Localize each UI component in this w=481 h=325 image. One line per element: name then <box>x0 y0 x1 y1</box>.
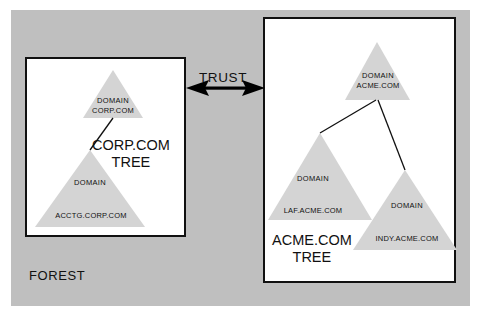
acme-tree-caption-line1: ACME.COM <box>272 232 352 249</box>
corp-root-kind-label: DOMAIN <box>83 96 143 105</box>
acctg-kind-label: DOMAIN <box>60 178 120 187</box>
corp-tree-caption: CORP.COM TREE <box>92 137 170 171</box>
diagram-canvas: DOMAIN CORP.COM DOMAIN ACCTG.CORP.COM DO… <box>0 0 481 325</box>
indy-name-label: INDY.ACME.COM <box>364 234 450 243</box>
corp-tree-caption-line1: CORP.COM <box>92 137 170 154</box>
acme-tree-caption: ACME.COM TREE <box>272 232 352 266</box>
laf-name-label: LAF.ACME.COM <box>271 206 355 215</box>
laf-kind-label: DOMAIN <box>282 174 344 183</box>
corp-root-name-label: CORP.COM <box>78 106 148 115</box>
forest-label: FOREST <box>29 268 85 283</box>
acme-tree-caption-line2: TREE <box>272 249 352 266</box>
trust-label: TRUST <box>199 70 247 85</box>
acctg-name-label: ACCTG.CORP.COM <box>38 211 144 220</box>
acme-root-name-label: ACME.COM <box>345 81 411 90</box>
corp-tree-caption-line2: TREE <box>92 154 170 171</box>
indy-kind-label: DOMAIN <box>376 201 438 210</box>
acme-root-kind-label: DOMAIN <box>347 71 409 80</box>
